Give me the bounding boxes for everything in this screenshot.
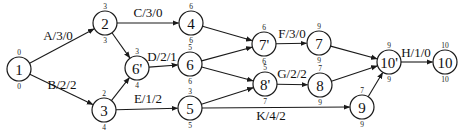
activity-label: F/3/0 (278, 26, 305, 41)
earliest-time-label: 9 (387, 41, 391, 50)
latest-time-label: 4 (102, 123, 106, 132)
edge-8p-to-8 (277, 84, 308, 85)
edge-8-to-10p (331, 66, 377, 81)
event-node-6p: 6'34 (125, 47, 149, 90)
activity-label: D/2/1 (147, 49, 177, 64)
edge-5-to-8p (201, 88, 253, 105)
node-label: 7' (259, 37, 270, 53)
earliest-time-label: 6 (189, 2, 193, 11)
earliest-time-label: 3 (135, 47, 139, 56)
earliest-time-label: 7 (360, 86, 364, 95)
activity-label: A/3/0 (43, 28, 73, 43)
latest-time-label: 4 (135, 81, 139, 90)
earliest-time-label: 10 (441, 41, 449, 50)
node-label: 2 (101, 16, 109, 32)
event-node-6: 656 (178, 43, 202, 86)
latest-time-label: 9 (318, 98, 322, 107)
edge-2-to-6p (112, 33, 130, 58)
earliest-time-label: 6 (262, 23, 266, 32)
event-node-3: 324 (92, 89, 116, 132)
event-node-7p: 7'66 (252, 23, 276, 66)
node-label: 4 (187, 16, 195, 32)
event-node-2: 233 (93, 2, 117, 45)
latest-time-label: 10 (441, 75, 449, 84)
latest-time-label: 6 (188, 77, 192, 86)
event-node-10p: 10'99 (377, 41, 401, 84)
node-label: 5 (186, 101, 194, 117)
earliest-time-label: 0 (17, 48, 21, 57)
earliest-time-label: 5 (188, 43, 192, 52)
event-node-8: 879 (308, 64, 332, 107)
edge-3-to-5 (116, 108, 178, 109)
node-label: 10' (380, 55, 398, 71)
event-node-7: 799 (307, 22, 331, 65)
latest-time-label: 7 (263, 97, 267, 106)
nodes-layer: 1002336'343244666565357'668'577998799791… (7, 2, 457, 132)
edges-layer (30, 23, 433, 110)
earliest-time-label: 9 (317, 22, 321, 31)
latest-time-label: 0 (17, 82, 21, 91)
network-diagram: A/3/0B/2/2C/3/0D/2/1E/1/2F/3/0G/2/2K/4/2… (0, 0, 463, 137)
activity-label: H/1/0 (401, 45, 431, 60)
earliest-time-label: 3 (188, 87, 192, 96)
node-label: 8 (316, 78, 324, 94)
earliest-time-label: 5 (263, 63, 267, 72)
activity-label: B/2/2 (48, 77, 77, 92)
edge-7p-to-7 (276, 43, 307, 44)
latest-time-label: 9 (360, 120, 364, 129)
earliest-time-label: 3 (103, 2, 107, 11)
event-node-8p: 8'57 (253, 63, 277, 106)
activity-label: C/3/0 (134, 5, 163, 20)
event-node-10: 101010 (433, 41, 457, 84)
event-node-1: 100 (7, 48, 31, 91)
earliest-time-label: 7 (318, 64, 322, 73)
edge-6-to-7p (202, 47, 252, 61)
latest-time-label: 9 (387, 75, 391, 84)
node-label: 7 (315, 36, 323, 52)
node-label: 1 (15, 62, 23, 78)
node-label: 10 (438, 55, 453, 71)
node-label: 9 (358, 100, 366, 116)
earliest-time-label: 2 (102, 89, 106, 98)
event-node-5: 535 (178, 87, 202, 130)
event-node-4: 466 (179, 2, 203, 45)
activity-label: G/2/2 (277, 66, 307, 81)
node-label: 6' (132, 61, 143, 77)
latest-time-label: 5 (188, 121, 192, 130)
edge-6p-to-6 (149, 65, 178, 67)
node-label: 8' (260, 77, 271, 93)
edge-4-to-7p (203, 26, 252, 40)
edge-9-to-10p (368, 73, 382, 97)
edge-6-to-8p (202, 67, 253, 81)
activity-label: K/4/2 (256, 108, 286, 123)
latest-time-label: 3 (103, 36, 107, 45)
diagram-canvas: A/3/0B/2/2C/3/0D/2/1E/1/2F/3/0G/2/2K/4/2… (0, 0, 463, 137)
node-label: 3 (100, 103, 108, 119)
node-label: 6 (186, 57, 194, 73)
edge-7-to-10p (331, 46, 377, 59)
activity-label: E/1/2 (134, 91, 162, 106)
edge-3-to-6p (111, 78, 129, 101)
